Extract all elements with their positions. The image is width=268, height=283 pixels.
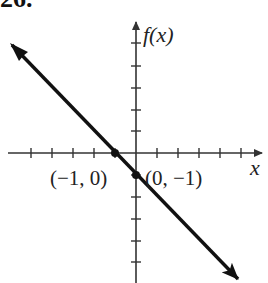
point-x-intercept: [111, 149, 119, 157]
function-line: [12, 45, 238, 279]
point-label-y-intercept: (0, −1): [145, 166, 202, 190]
x-axis: [8, 148, 262, 158]
x-axis-label: x: [249, 155, 260, 180]
coordinate-plane: x f(x) (−1, 0) (0, −1): [0, 0, 268, 283]
point-label-x-intercept: (−1, 0): [50, 166, 107, 190]
graph-figure: 26.: [0, 0, 268, 283]
point-y-intercept: [132, 171, 140, 179]
y-axis-label: f(x): [143, 22, 174, 47]
